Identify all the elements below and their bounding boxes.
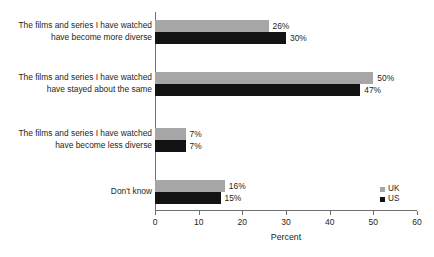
bar-group: The films and series I have watched have… [0, 20, 434, 44]
x-tick-mark [155, 211, 156, 215]
x-tick-mark [373, 211, 374, 215]
bar-chart: The films and series I have watched have… [0, 0, 434, 257]
category-label: The films and series I have watched have… [2, 20, 152, 43]
bar-us [155, 84, 360, 96]
bar-value-label: 7% [186, 140, 202, 152]
category-label: The films and series I have watched have… [2, 72, 152, 95]
x-tick-mark [286, 211, 287, 215]
category-label: Don't know [2, 186, 152, 198]
bar-us [155, 32, 286, 44]
legend-swatch-us-icon [380, 197, 385, 202]
x-tick-mark [330, 211, 331, 215]
category-label: The films and series I have watched have… [2, 128, 152, 151]
x-tick-mark [417, 211, 418, 215]
bar-value-label: 30% [286, 32, 307, 44]
x-tick-label: 10 [184, 217, 214, 228]
x-axis-title: Percent [155, 232, 417, 242]
bar-value-label: 50% [373, 72, 394, 84]
bar-value-label: 7% [186, 128, 202, 140]
x-tick-label: 30 [271, 217, 301, 228]
bar-value-label: 15% [221, 192, 242, 204]
x-tick-label: 0 [140, 217, 170, 228]
bar-group: Don't know16%15% [0, 180, 434, 204]
bar-value-label: 26% [269, 20, 290, 32]
x-tick-label: 20 [227, 217, 257, 228]
bar-group: The films and series I have watched have… [0, 128, 434, 152]
legend: UK US [380, 184, 399, 204]
bar-group: The films and series I have watched have… [0, 72, 434, 96]
legend-label-uk: UK [388, 184, 399, 194]
bar-uk [155, 72, 373, 84]
bar-uk [155, 128, 186, 140]
bar-us [155, 192, 221, 204]
x-tick-label: 50 [358, 217, 388, 228]
x-tick-label: 40 [315, 217, 345, 228]
legend-swatch-uk-icon [380, 187, 385, 192]
x-tick-label: 60 [402, 217, 432, 228]
bar-value-label: 16% [225, 180, 246, 192]
bar-value-label: 47% [360, 84, 381, 96]
x-tick-mark [242, 211, 243, 215]
bar-us [155, 140, 186, 152]
legend-item-us: US [380, 194, 399, 204]
legend-label-us: US [388, 194, 399, 204]
bar-uk [155, 20, 269, 32]
legend-item-uk: UK [380, 184, 399, 194]
bar-uk [155, 180, 225, 192]
x-tick-mark [199, 211, 200, 215]
